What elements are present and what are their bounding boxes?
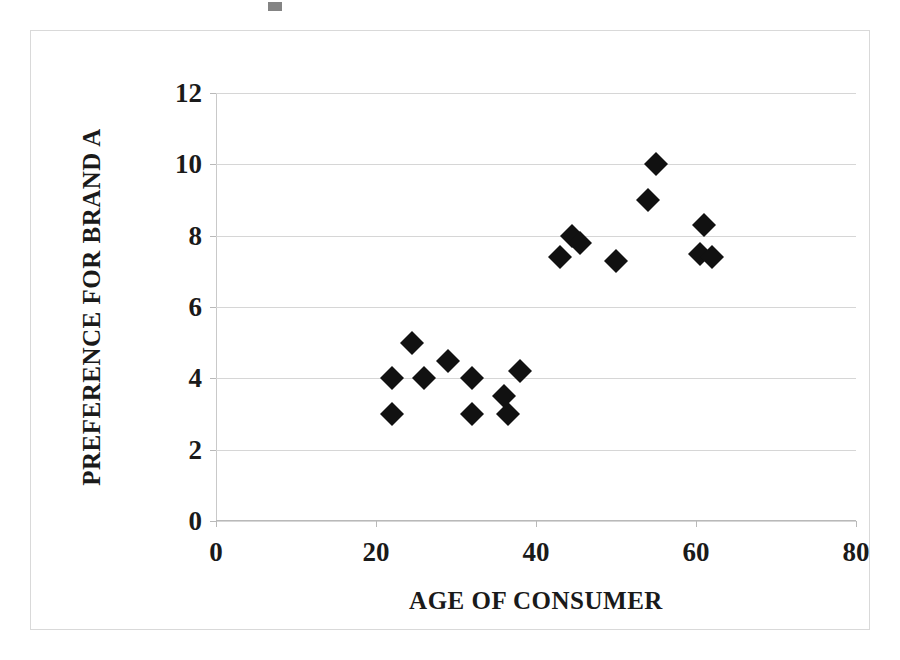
- x-tick-label: 80: [843, 537, 870, 568]
- y-tick-mark: [210, 93, 216, 94]
- x-tick-label: 60: [683, 537, 710, 568]
- x-axis-title-label: AGE OF CONSUMER: [409, 587, 663, 614]
- y-tick-label: 10: [175, 149, 202, 180]
- x-tick-label: 20: [363, 537, 390, 568]
- data-point-marker: [692, 213, 716, 237]
- y-tick-mark: [210, 164, 216, 165]
- x-tick-mark: [216, 521, 217, 527]
- x-tick-label: 40: [523, 537, 550, 568]
- data-point-marker: [644, 152, 668, 176]
- y-tick-label: 12: [175, 78, 202, 109]
- gridline: [216, 164, 856, 165]
- x-tick-mark: [536, 521, 537, 527]
- gridline: [216, 93, 856, 94]
- data-point-marker: [412, 366, 436, 390]
- data-point-marker: [604, 249, 628, 273]
- data-point-marker: [380, 366, 404, 390]
- x-tick-mark: [856, 521, 857, 527]
- x-tick-mark: [696, 521, 697, 527]
- chart-frame: PREFERENCE FOR BRAND A AGE OF CONSUMER 0…: [30, 30, 870, 630]
- y-tick-mark: [210, 236, 216, 237]
- y-tick-label: 6: [189, 292, 203, 323]
- y-tick-label: 2: [189, 434, 203, 465]
- gridline: [216, 236, 856, 237]
- data-point-marker: [496, 402, 520, 426]
- x-axis-title: AGE OF CONSUMER: [216, 587, 856, 615]
- plot-area: 024681012 020406080: [216, 93, 856, 521]
- data-point-marker: [548, 245, 572, 269]
- y-tick-label: 8: [189, 220, 203, 251]
- y-axis-title: PREFERENCE FOR BRAND A: [75, 93, 109, 521]
- y-tick-mark: [210, 378, 216, 379]
- scatter-chart-screenshot: PREFERENCE FOR BRAND A AGE OF CONSUMER 0…: [0, 0, 900, 660]
- gridline: [216, 378, 856, 379]
- y-tick-mark: [210, 307, 216, 308]
- data-point-marker: [460, 402, 484, 426]
- data-point-marker: [460, 366, 484, 390]
- gridline: [216, 450, 856, 451]
- y-tick-label: 0: [189, 506, 203, 537]
- data-point-marker: [380, 402, 404, 426]
- y-tick-mark: [210, 450, 216, 451]
- y-axis-title-label: PREFERENCE FOR BRAND A: [78, 128, 106, 486]
- gridline: [216, 307, 856, 308]
- data-point-marker: [508, 359, 532, 383]
- data-point-marker: [636, 188, 660, 212]
- data-point-marker: [400, 331, 424, 355]
- x-tick-mark: [376, 521, 377, 527]
- scan-artifact: [268, 2, 282, 11]
- y-tick-label: 4: [189, 363, 203, 394]
- x-tick-label: 0: [209, 537, 223, 568]
- data-point-marker: [436, 348, 460, 372]
